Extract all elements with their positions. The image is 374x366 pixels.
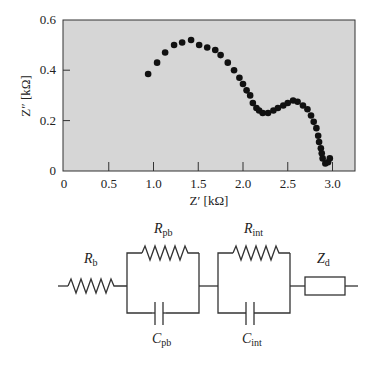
data-point (308, 112, 315, 119)
figure: 00.51.01.52.02.53.0 00.20.40.6 Z′ [kΩ] Z… (0, 0, 374, 366)
resistor-rpb (142, 246, 199, 260)
data-point (231, 67, 238, 74)
data-point (236, 74, 243, 81)
data-point (240, 81, 247, 88)
data-point (224, 59, 231, 66)
block2-frame-left (218, 253, 244, 313)
data-point (217, 52, 224, 59)
plot-area (63, 20, 355, 171)
x-tick-label: 1.5 (190, 176, 206, 191)
x-tick-label: 0.5 (101, 176, 117, 191)
y-axis-label: Z″ [kΩ] (18, 75, 33, 116)
data-point (145, 71, 152, 78)
impedance-zd (305, 277, 345, 295)
block2-frame-right (256, 253, 290, 313)
x-tick-label: 1.0 (145, 176, 161, 191)
data-point (179, 39, 186, 46)
y-tick-label: 0.2 (40, 113, 56, 128)
data-point (212, 47, 219, 54)
x-axis-label: Z′ [kΩ] (190, 193, 229, 208)
data-point (162, 49, 169, 56)
block1-frame-left (127, 253, 152, 313)
resistor-rint (233, 246, 290, 260)
nyquist-chart: 00.51.01.52.02.53.0 00.20.40.6 Z′ [kΩ] Z… (18, 12, 355, 208)
data-point (204, 44, 211, 51)
data-point (316, 139, 323, 146)
data-point (294, 98, 301, 105)
x-tick-label: 0 (61, 176, 68, 191)
data-point (315, 132, 322, 139)
equivalent-circuit (58, 246, 358, 325)
y-tick-label: 0 (50, 163, 57, 178)
x-tick-label: 3.0 (324, 176, 340, 191)
label-cint: Cint (242, 331, 262, 348)
y-axis-tick-labels: 00.20.40.6 (40, 12, 57, 178)
label-zd: Zd (317, 251, 330, 268)
label-rb: Rb (83, 251, 98, 268)
y-tick-label: 0.4 (40, 62, 57, 77)
x-axis-tick-labels: 00.51.01.52.02.53.0 (61, 176, 341, 191)
block1-frame-right (166, 253, 199, 313)
x-tick-label: 2.0 (235, 176, 251, 191)
data-point (188, 37, 195, 44)
data-point (196, 42, 203, 49)
resistor-rb (68, 279, 127, 293)
x-tick-label: 2.5 (280, 176, 296, 191)
data-point (247, 92, 254, 99)
data-point (313, 125, 320, 132)
label-rint: Rint (243, 221, 263, 238)
circuit-labels: Rb Rpb Cpb Rint Cint Zd (83, 221, 330, 348)
label-rpb: Rpb (153, 221, 173, 238)
y-tick-label: 0.6 (40, 12, 57, 27)
data-point (304, 106, 311, 113)
data-point (327, 155, 334, 162)
data-point (171, 42, 178, 49)
data-point (154, 59, 161, 66)
label-cpb: Cpb (152, 331, 171, 348)
data-point (310, 119, 317, 126)
